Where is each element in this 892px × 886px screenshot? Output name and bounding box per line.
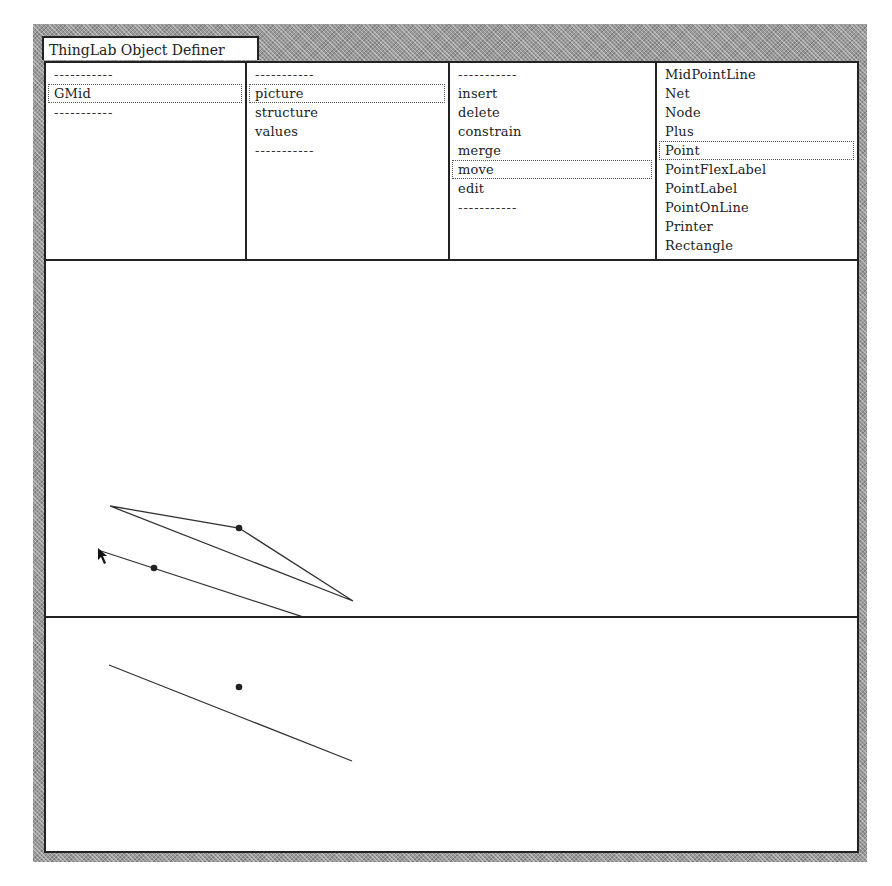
list-item-plus[interactable]: Plus <box>659 122 854 141</box>
list-item-pointonline[interactable]: PointOnLine <box>659 198 854 217</box>
views-list-pane[interactable]: -----------picturestructurevalues-------… <box>247 63 450 260</box>
picture-canvas[interactable] <box>46 261 857 616</box>
prototype-canvas[interactable] <box>46 618 857 851</box>
list-separator: ----------- <box>249 65 445 84</box>
window-title: ThingLab Object Definer <box>49 42 225 58</box>
line-shape[interactable] <box>98 550 337 616</box>
list-item-edit[interactable]: edit <box>452 179 652 198</box>
list-item-structure[interactable]: structure <box>249 103 445 122</box>
vertex-point[interactable] <box>236 525 243 532</box>
list-item-net[interactable]: Net <box>659 84 854 103</box>
prototype-line-shape[interactable] <box>109 665 352 761</box>
list-item-pointflexlabel[interactable]: PointFlexLabel <box>659 160 854 179</box>
list-item-delete[interactable]: delete <box>452 103 652 122</box>
list-item-node[interactable]: Node <box>659 103 854 122</box>
list-item-gmid[interactable]: GMid <box>48 84 242 103</box>
classes-list-pane[interactable]: -----------GMid----------- <box>46 63 247 260</box>
picture-pane[interactable] <box>46 261 857 616</box>
prototype-point[interactable] <box>236 684 243 691</box>
list-item-picture[interactable]: picture <box>249 84 445 103</box>
list-item-move[interactable]: move <box>452 160 652 179</box>
triangle-shape[interactable] <box>110 506 353 601</box>
list-item-point[interactable]: Point <box>659 141 854 160</box>
prototypes-list: MidPointLineNetNodePlusPointPointFlexLab… <box>657 65 857 255</box>
list-item-rectangle[interactable]: Rectangle <box>659 236 854 255</box>
line-point[interactable] <box>151 565 158 572</box>
list-item-midpointline[interactable]: MidPointLine <box>659 65 854 84</box>
prototype-picture-pane[interactable] <box>46 618 857 851</box>
list-item-constrain[interactable]: constrain <box>452 122 652 141</box>
arrow-cursor-icon <box>98 548 107 564</box>
list-item-insert[interactable]: insert <box>452 84 652 103</box>
commands-list: -----------insertdeleteconstrainmergemov… <box>450 65 655 217</box>
list-item-printer[interactable]: Printer <box>659 217 854 236</box>
object-definer-window: -----------GMid----------- -----------pi… <box>44 61 859 853</box>
window-title-tab[interactable]: ThingLab Object Definer <box>42 36 259 60</box>
list-separator: ----------- <box>48 103 242 122</box>
list-separator: ----------- <box>249 141 445 160</box>
views-list: -----------picturestructurevalues-------… <box>247 65 448 160</box>
list-item-pointlabel[interactable]: PointLabel <box>659 179 854 198</box>
prototypes-list-pane[interactable]: MidPointLineNetNodePlusPointPointFlexLab… <box>657 63 857 260</box>
list-item-merge[interactable]: merge <box>452 141 652 160</box>
list-separator: ----------- <box>452 198 652 217</box>
list-item-values[interactable]: values <box>249 122 445 141</box>
commands-list-pane[interactable]: -----------insertdeleteconstrainmergemov… <box>450 63 657 260</box>
classes-list: -----------GMid----------- <box>46 65 245 122</box>
list-separator: ----------- <box>48 65 242 84</box>
list-separator: ----------- <box>452 65 652 84</box>
